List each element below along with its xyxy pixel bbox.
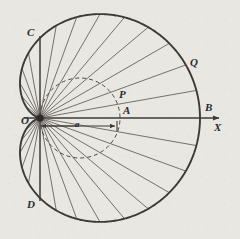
label-a-point: A: [123, 105, 130, 116]
label-c: C: [27, 27, 34, 38]
figure-svg: [0, 0, 240, 239]
label-x-axis: X: [214, 122, 221, 133]
pole-node-o: [36, 114, 43, 121]
label-segment-a: a: [75, 120, 80, 129]
label-p: P: [119, 89, 126, 100]
label-o: O: [21, 115, 29, 126]
label-q: Q: [190, 57, 198, 68]
label-b: B: [205, 102, 212, 113]
label-d: D: [27, 199, 35, 210]
cardioid-figure: O C D B X Q P A a: [0, 0, 240, 239]
